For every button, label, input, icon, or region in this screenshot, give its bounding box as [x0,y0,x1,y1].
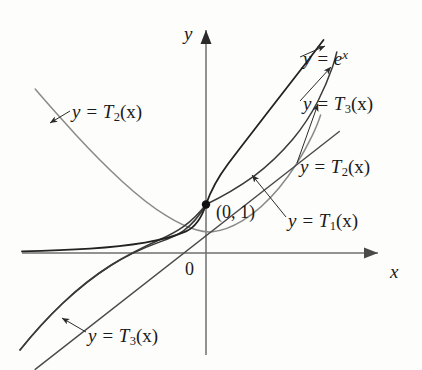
y-axis-arrowhead [201,30,212,44]
curve-label-t3-right-lead: y = [303,93,334,114]
curve-label-t3-bottom-lead: y = [88,325,119,346]
curve-label-exp-lead: y = [303,48,334,69]
curve-label-t2-left-base: T [103,101,114,122]
taylor-polynomial-figure: y = ex y = T3(x) y = T2(x) y = T1(x) y =… [0,0,422,370]
curve-label-t2-right-arg: (x) [348,156,370,177]
curve-label-t3-right-arg: (x) [351,93,373,114]
curve-label-t2-left: y = T2(x) [72,102,142,123]
curve-label-t3-bottom-base: T [119,325,130,346]
curve-label-exp-base: e [334,48,342,69]
curve-label-t1-right-lead: y = [288,210,319,231]
plot-canvas [0,0,422,370]
curve-label-t1-right-arg: (x) [336,210,358,231]
point-label-0-1: (0, 1) [216,203,255,221]
leader-line-t3-bottom [62,318,86,332]
curve-label-t1-right-base: T [319,210,330,231]
curve-label-t3-bottom: y = T3(x) [88,326,158,347]
t3-curve [20,52,337,350]
curve-label-t3-right-base: T [334,93,345,114]
axes-group [22,30,378,355]
tangent-point-marker [202,200,210,208]
t1-curve [35,132,339,370]
curve-label-t2-left-lead: y = [72,101,103,122]
curve-label-exp: y = ex [303,49,348,68]
curve-label-t2-right-base: T [331,156,342,177]
curve-label-exp-exponent: x [342,47,348,62]
curve-label-t2-left-arg: (x) [120,101,142,122]
leader-line-t2-left [50,111,70,123]
curve-label-t2-right: y = T2(x) [300,157,370,178]
curve-label-t2-right-lead: y = [300,156,331,177]
curve-label-t3-bottom-arg: (x) [136,325,158,346]
y-axis-label: y [184,24,192,43]
origin-label: 0 [185,260,194,278]
x-axis-label: x [390,262,398,281]
x-axis-arrowhead [364,248,378,259]
curve-label-t1-right: y = T1(x) [288,211,358,232]
leader-lines-group [50,46,331,332]
curve-label-t3-right: y = T3(x) [303,94,373,115]
